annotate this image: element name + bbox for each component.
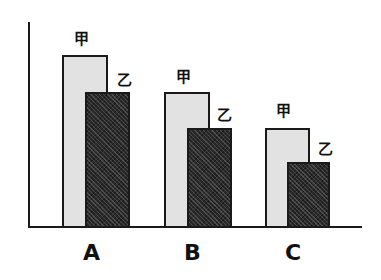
category-label-a: A xyxy=(83,240,100,265)
category-label-c: C xyxy=(285,240,301,265)
label-c-jia: 甲 xyxy=(276,99,291,120)
category-label-b: B xyxy=(184,240,201,265)
bar-a-yi xyxy=(85,92,130,227)
y-axis xyxy=(28,22,30,228)
bar-c-yi xyxy=(287,162,330,227)
bar-b-yi xyxy=(187,128,232,227)
label-b-yi: 乙 xyxy=(217,103,232,124)
bar-chart: 甲 乙 甲 乙 甲 乙 A B C xyxy=(0,0,381,280)
label-a-jia: 甲 xyxy=(74,27,89,48)
label-a-yi: 乙 xyxy=(117,68,132,89)
x-axis xyxy=(28,226,362,228)
label-c-yi: 乙 xyxy=(318,137,333,158)
label-b-jia: 甲 xyxy=(176,65,191,86)
